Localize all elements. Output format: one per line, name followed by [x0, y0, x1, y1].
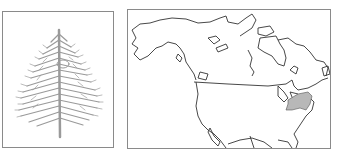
species-range-region	[286, 92, 312, 110]
tree-icon	[3, 12, 113, 147]
north-america-map	[128, 10, 330, 148]
tree-illustration-panel	[2, 11, 114, 148]
range-map-panel	[127, 9, 331, 149]
